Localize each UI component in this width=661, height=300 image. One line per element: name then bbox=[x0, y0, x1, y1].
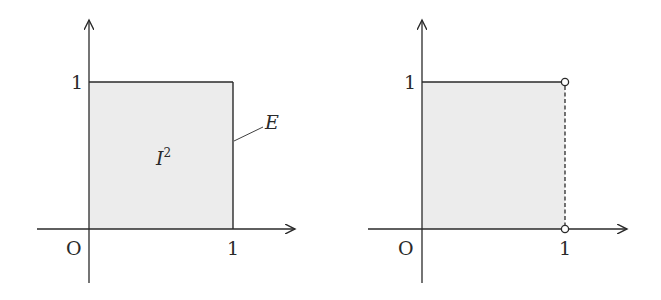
edge-label-leader-line bbox=[234, 127, 263, 141]
half-open-square-region bbox=[422, 82, 565, 229]
edge-label: E bbox=[264, 111, 279, 133]
right-diagram: 1 O 1 bbox=[368, 20, 627, 283]
x-tick-label: 1 bbox=[227, 237, 239, 259]
x-tick-label: 1 bbox=[559, 237, 571, 259]
open-point-bottom-right bbox=[561, 225, 568, 232]
figure-canvas: 1 O 1 E I2 1 O 1 bbox=[0, 0, 661, 300]
origin-label: O bbox=[398, 237, 414, 259]
y-tick-label: 1 bbox=[404, 71, 416, 93]
region-label-superscript: 2 bbox=[164, 146, 172, 160]
y-tick-label: 1 bbox=[71, 71, 83, 93]
left-diagram: 1 O 1 E I2 bbox=[37, 20, 295, 283]
open-point-top-right bbox=[561, 78, 568, 85]
origin-label: O bbox=[66, 237, 82, 259]
